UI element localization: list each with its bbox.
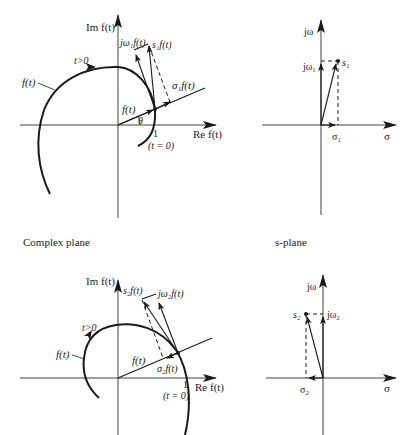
s1-point-label: s₁ <box>342 57 349 68</box>
time-label: t>0 <box>74 55 89 66</box>
diagram-stage: Im f(t) Re f(t) f(t) t>0 f(t) θ 1 (t = 0… <box>0 0 414 435</box>
sigma-axis-label: σ <box>384 130 390 142</box>
jomega1-label: jω₁f(t) <box>118 37 146 49</box>
curve-label: f(t) <box>56 348 70 361</box>
one-label: 1 <box>153 128 158 139</box>
s-plane-caption: s-plane <box>275 236 307 248</box>
jomega-axis-label: jω <box>303 26 314 37</box>
s2-point-label: s₂ <box>293 309 301 320</box>
s2-label: s₂f(t) <box>123 285 143 297</box>
t0-label: (t = 0) <box>148 140 175 152</box>
vector-label: f(t) <box>122 103 136 116</box>
one-label: 1 <box>183 379 188 390</box>
complex-plane-top: Im f(t) Re f(t) f(t) t>0 f(t) θ 1 (t = 0… <box>20 15 222 218</box>
leader-line <box>72 355 85 359</box>
f-t-point <box>153 107 157 111</box>
vector-label: f(t) <box>132 354 146 367</box>
im-axis-label: Im f(t) <box>86 21 115 34</box>
f-t-point <box>176 351 180 355</box>
s1-vector <box>321 64 336 125</box>
s2-vector <box>307 317 323 378</box>
parallelogram-edge <box>142 294 156 299</box>
sigma-axis-label: σ <box>384 382 390 394</box>
s1-label: s₁f(t) <box>152 39 172 51</box>
curve-label: f(t) <box>22 76 36 89</box>
diagram-svg: Im f(t) Re f(t) f(t) t>0 f(t) θ 1 (t = 0… <box>0 0 414 435</box>
dashed-projection <box>142 300 163 358</box>
s-plane-bottom: jω σ s₂ jω₂ σ₂ <box>266 275 396 435</box>
t0-label: (t = 0) <box>163 390 190 402</box>
im-axis-label: Im f(t) <box>86 275 115 288</box>
s1-point <box>336 59 340 63</box>
sigma1-tick-label: σ₁ <box>332 131 341 142</box>
leader-line <box>38 83 55 90</box>
f-t-curve <box>38 67 155 194</box>
time-label: t>0 <box>82 322 97 333</box>
sigma1-label: σ₁f(t) <box>172 79 195 92</box>
sigma2-tick-label: σ₂ <box>300 384 309 395</box>
s2-point <box>304 312 308 316</box>
complex-plane-bottom: Im f(t) Re f(t) f(t) t>0 f(t) 1 (t = 0) … <box>20 275 224 435</box>
re-axis-label: Re f(t) <box>193 128 222 141</box>
jomega1-tick-label: jω₁ <box>302 61 316 72</box>
s-plane-top: jω σ s₁ jω₁ σ₁ <box>262 20 396 215</box>
sigma1-vector <box>155 102 170 109</box>
jomega2-label: jω₂f(t) <box>156 288 184 300</box>
sigma2-label: σ₂f(t) <box>157 363 178 375</box>
jomega2-tick-label: jω₂ <box>326 309 340 320</box>
complex-plane-caption: Complex plane <box>23 236 90 248</box>
jomega-axis-label: jω <box>306 281 317 292</box>
theta-label: θ <box>138 115 143 126</box>
re-axis-label: Re f(t) <box>195 381 224 394</box>
